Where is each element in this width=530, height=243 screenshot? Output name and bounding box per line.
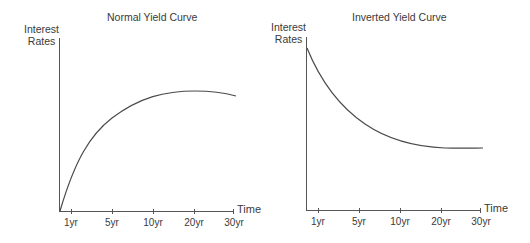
x-tick-label: 10yr xyxy=(143,217,162,228)
normal-yield-curve-line xyxy=(60,91,236,211)
x-axis-label: Time xyxy=(484,202,508,214)
x-tick-label: 5yr xyxy=(105,217,119,228)
inverted-yield-curve-line xyxy=(307,48,483,148)
x-tick-label: 1yr xyxy=(311,216,325,227)
x-tick-label: 20yr xyxy=(431,216,450,227)
normal-curve-plot xyxy=(0,0,265,243)
inverted-yield-curve-chart: Inverted Yield Curve Interest Rates Time… xyxy=(265,0,530,243)
x-tick-label: 5yr xyxy=(352,216,366,227)
x-axis-label: Time xyxy=(237,203,261,215)
x-tick-label: 30yr xyxy=(471,216,490,227)
x-tick-label: 10yr xyxy=(390,216,409,227)
x-tick-label: 20yr xyxy=(184,217,203,228)
x-tick-label: 1yr xyxy=(64,217,78,228)
normal-yield-curve-chart: Normal Yield Curve Interest Rates Time 1… xyxy=(0,0,265,243)
x-tick-label: 30yr xyxy=(224,217,243,228)
